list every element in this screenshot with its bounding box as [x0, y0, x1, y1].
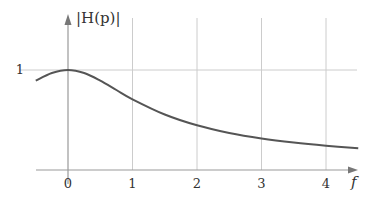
x-axis-label: f [350, 173, 359, 191]
y-axis-label: |H(p)| [76, 9, 121, 27]
x-tick-label: 4 [322, 176, 330, 191]
gridlines [20, 18, 357, 170]
x-tick-label: 1 [128, 176, 136, 191]
x-tick-label: 2 [193, 176, 201, 191]
chart: 012341 |H(p)| f [0, 0, 377, 202]
x-tick-label: 3 [257, 176, 265, 191]
tick-labels: 012341 [16, 62, 330, 191]
y-axis-arrow-icon [65, 14, 72, 25]
y-tick-label: 1 [16, 62, 24, 77]
x-tick-label: 0 [64, 176, 72, 191]
